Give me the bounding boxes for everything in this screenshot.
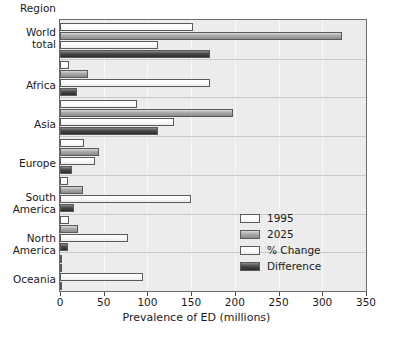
legend-swatch-icon — [240, 230, 260, 239]
bar-pct-change — [60, 157, 95, 165]
bar-1995 — [60, 216, 69, 224]
x-axis-title: Prevalence of ED (millions) — [0, 311, 393, 324]
legend-swatch-icon — [240, 246, 260, 255]
bar-2025 — [60, 109, 233, 117]
x-tick-label: 200 — [225, 296, 245, 308]
legend-label: 2025 — [267, 228, 294, 240]
x-tick-label: 50 — [97, 296, 110, 308]
bar-1995 — [60, 255, 62, 263]
bar-2025 — [60, 225, 78, 233]
legend-label: % Change — [267, 244, 321, 256]
x-tick-label: 100 — [137, 296, 157, 308]
bar-difference — [60, 204, 74, 212]
legend-item-2025[interactable]: 2025 — [240, 226, 321, 242]
category-label-world-total: World total — [0, 27, 56, 50]
bar-2025 — [60, 186, 83, 194]
legend-item-pct-change[interactable]: % Change — [240, 242, 321, 258]
bar-difference — [60, 166, 72, 174]
vertical-gridline — [366, 20, 367, 291]
vertical-gridline — [322, 20, 323, 291]
x-tick-label: 0 — [57, 296, 64, 308]
category-label-line2: total — [0, 39, 56, 51]
bar-difference — [60, 243, 68, 251]
bar-difference — [60, 50, 210, 58]
category-separator — [60, 136, 366, 137]
category-label-line1: Oceania — [0, 274, 56, 286]
vertical-gridline — [104, 20, 105, 291]
category-label-africa: Africa — [0, 80, 56, 92]
category-label-line2: America — [0, 204, 56, 216]
x-tick-label: 250 — [269, 296, 289, 308]
y-axis-title: Region — [20, 2, 56, 14]
category-label-line1: World — [0, 27, 56, 39]
chart-legend: 19952025% ChangeDifference — [240, 210, 321, 274]
bar-difference — [60, 282, 62, 290]
legend-swatch-icon — [240, 262, 260, 271]
legend-label: Difference — [267, 260, 321, 272]
bar-2025 — [60, 70, 88, 78]
legend-swatch-icon — [240, 214, 260, 223]
category-separator — [60, 175, 366, 176]
legend-item-1995[interactable]: 1995 — [240, 210, 321, 226]
chart-root: Region World total Africa Asia Europe So… — [0, 0, 393, 339]
bar-pct-change — [60, 79, 210, 87]
category-label-line1: South — [0, 192, 56, 204]
category-label-oceania: Oceania — [0, 274, 56, 286]
legend-label: 1995 — [267, 212, 294, 224]
bar-2025 — [60, 264, 62, 272]
bar-pct-change — [60, 41, 158, 49]
x-tick-label: 350 — [356, 296, 376, 308]
bar-pct-change — [60, 273, 143, 281]
category-label-europe: Europe — [0, 158, 56, 170]
bar-pct-change — [60, 118, 174, 126]
bar-1995 — [60, 139, 84, 147]
bar-difference — [60, 127, 158, 135]
category-label-line1: Africa — [0, 80, 56, 92]
category-label-line1: North — [0, 233, 56, 245]
bar-difference — [60, 88, 77, 96]
x-tick-label: 150 — [181, 296, 201, 308]
x-tick-label: 300 — [312, 296, 332, 308]
vertical-gridline — [147, 20, 148, 291]
category-separator — [60, 97, 366, 98]
legend-item-difference[interactable]: Difference — [240, 258, 321, 274]
category-label-line1: Europe — [0, 158, 56, 170]
bar-1995 — [60, 61, 69, 69]
bar-1995 — [60, 100, 137, 108]
vertical-gridline — [191, 20, 192, 291]
bar-1995 — [60, 177, 68, 185]
bar-2025 — [60, 32, 342, 40]
bar-pct-change — [60, 234, 128, 242]
category-label-north-america: North America — [0, 233, 56, 256]
bar-pct-change — [60, 195, 191, 203]
bar-1995 — [60, 23, 193, 31]
vertical-gridline — [235, 20, 236, 291]
category-label-line1: Asia — [0, 119, 56, 131]
category-separator — [60, 59, 366, 60]
category-label-line2: America — [0, 245, 56, 257]
category-label-asia: Asia — [0, 119, 56, 131]
bar-2025 — [60, 148, 99, 156]
category-label-south-america: South America — [0, 192, 56, 215]
